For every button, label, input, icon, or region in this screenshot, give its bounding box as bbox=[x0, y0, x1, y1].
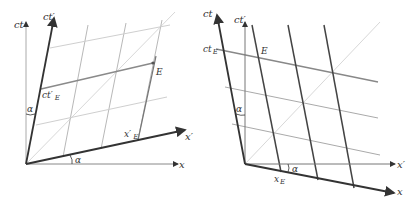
label-alpha-bottom: α bbox=[75, 155, 81, 165]
label-alpha-top: α bbox=[236, 104, 242, 114]
alpha-arc-top bbox=[26, 114, 35, 115]
label-ct-prime-E: ct′E bbox=[42, 90, 60, 102]
label-ct-prime: ct′ bbox=[43, 11, 56, 22]
ct-axis bbox=[217, 15, 245, 164]
label-ct-E: ctE bbox=[203, 44, 218, 56]
label-alpha-top: α bbox=[27, 104, 33, 114]
label-alpha-bottom: α bbox=[292, 164, 298, 174]
x-prime-E-line bbox=[138, 56, 156, 140]
spacetime-diagrams: ct ct′ x x′ E ct′E x′E α α bbox=[0, 0, 416, 202]
label-E: E bbox=[155, 67, 163, 77]
ct-prime-E-line bbox=[41, 63, 153, 89]
alpha-arc-bottom bbox=[70, 155, 72, 164]
alpha-arc-top bbox=[236, 114, 245, 115]
label-x-prime: x′ bbox=[397, 159, 406, 170]
label-x: x bbox=[179, 159, 185, 170]
label-ct-prime: ct′ bbox=[234, 14, 247, 25]
x-axis bbox=[245, 164, 394, 193]
x-prime-axis bbox=[26, 130, 185, 164]
label-ct: ct bbox=[14, 19, 25, 30]
label-E: E bbox=[260, 46, 268, 56]
left-diagram: ct ct′ x x′ E ct′E x′E α α bbox=[14, 11, 194, 170]
right-diagram: ct ct′ x x′ E ctE xE α α bbox=[203, 8, 406, 197]
label-x: x bbox=[397, 186, 403, 197]
event-E-point bbox=[151, 61, 154, 64]
label-x-prime-E: x′E bbox=[124, 129, 138, 141]
ct-E-line bbox=[216, 49, 378, 82]
label-x-prime: x′ bbox=[185, 131, 194, 142]
alpha-arc-bottom bbox=[288, 164, 289, 172]
label-ct: ct bbox=[203, 8, 214, 19]
label-x-E: xE bbox=[274, 174, 285, 186]
